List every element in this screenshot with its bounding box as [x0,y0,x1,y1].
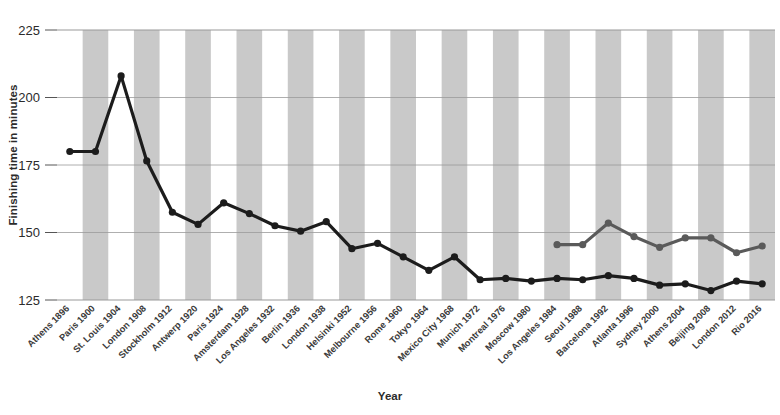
data-point-women [682,234,689,241]
data-point-women [733,249,740,256]
data-point-men [733,278,740,285]
data-point-men [630,275,637,282]
data-point-men [271,222,278,229]
y-axis-tick-label: 125 [18,293,40,308]
data-point-men [66,148,73,155]
data-point-men [425,267,432,274]
data-point-men [656,282,663,289]
data-point-men [92,148,99,155]
data-point-men [553,275,560,282]
data-point-women [605,219,612,226]
data-point-men [759,280,766,287]
data-point-men [246,210,253,217]
data-point-women [579,241,586,248]
chart-svg: 125150175200225 Athens 1896Paris 1900St.… [0,0,780,415]
data-point-men [348,245,355,252]
y-axis-tick-label: 150 [18,225,40,240]
x-axis-category-label: Helsinki 1952 [305,303,354,352]
data-point-men [579,276,586,283]
data-point-women [759,242,766,249]
data-point-men [143,157,150,164]
data-point-men [169,209,176,216]
data-point-men [477,276,484,283]
data-point-men [374,240,381,247]
y-axis-tick-label: 175 [18,158,40,173]
data-point-men [451,253,458,260]
data-point-men [400,253,407,260]
data-point-women [553,241,560,248]
data-point-men [682,280,689,287]
chart-container: Finishing time in minutes 12515017520022… [0,0,780,415]
y-axis-ticks-group: 125150175200225 [18,23,40,308]
data-point-men [220,199,227,206]
data-point-men [118,72,125,79]
data-point-men [194,221,201,228]
data-point-women [656,244,663,251]
data-point-men [707,287,714,294]
data-point-men [297,228,304,235]
x-axis-title: Year [0,390,780,402]
data-point-men [605,272,612,279]
y-axis-tick-label: 225 [18,23,40,38]
data-point-women [707,234,714,241]
x-axis-category-labels-group: Athens 1896Paris 1900St. Louis 1904Londo… [25,303,763,366]
data-point-men [323,218,330,225]
data-point-women [630,233,637,240]
data-point-men [502,275,509,282]
data-point-men [528,278,535,285]
y-axis-tick-label: 200 [18,90,40,105]
